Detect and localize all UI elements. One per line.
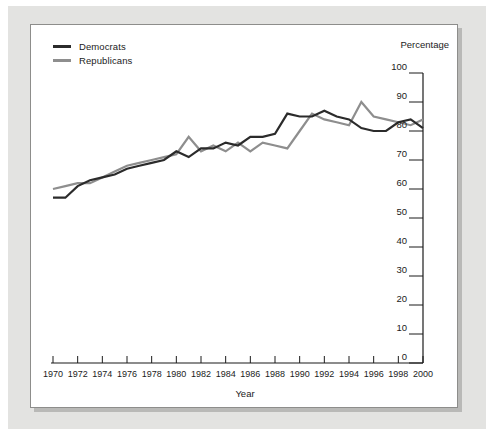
y-tick-label: 20 — [381, 293, 407, 304]
y-axis-ticks — [409, 73, 423, 363]
y-tick-label: 40 — [381, 235, 407, 246]
x-tick-label: 2000 — [408, 369, 438, 379]
chart-panel: Democrats Republicans Percentage 0102030… — [30, 24, 458, 408]
y-tick-label: 50 — [381, 206, 407, 217]
y-tick-label: 70 — [381, 148, 407, 159]
y-tick-label: 30 — [381, 264, 407, 275]
series-line-democrats — [53, 111, 423, 198]
chart-page: Democrats Republicans Percentage 0102030… — [0, 0, 498, 443]
y-tick-label: 10 — [381, 322, 407, 333]
y-tick-label: 80 — [381, 119, 407, 130]
series-lines — [53, 102, 423, 198]
x-axis-ticks — [53, 356, 423, 363]
y-tick-label: 0 — [381, 351, 407, 362]
y-tick-label: 60 — [381, 177, 407, 188]
x-axis-title: Year — [31, 388, 459, 399]
y-tick-label: 90 — [381, 90, 407, 101]
y-tick-label: 100 — [381, 61, 407, 72]
